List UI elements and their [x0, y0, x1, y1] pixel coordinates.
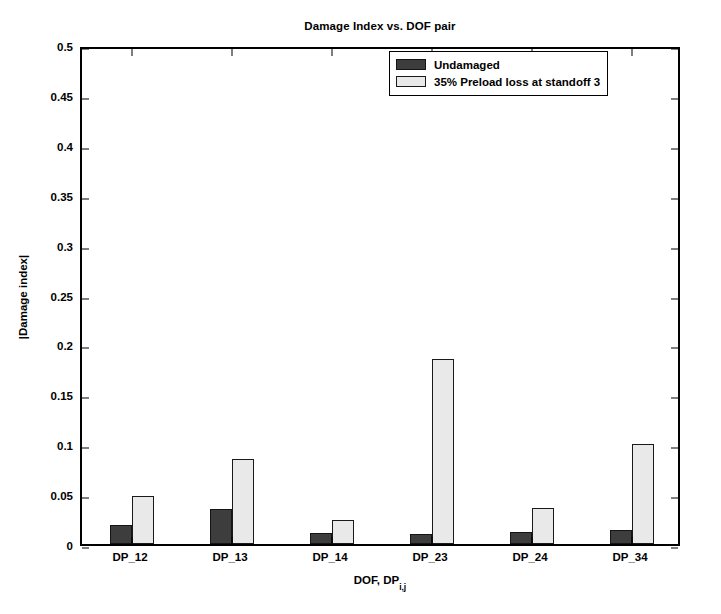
legend-label: 35% Preload loss at standoff 3	[434, 76, 600, 88]
x-tick-mark	[632, 537, 633, 544]
x-tick-label: DP_14	[312, 551, 347, 563]
y-tick-label: 0.1	[57, 440, 73, 452]
y-tick-mark	[82, 49, 89, 50]
bar	[332, 520, 354, 544]
y-tick-mark-right	[671, 198, 678, 199]
legend-item: Undamaged	[396, 56, 600, 73]
y-tick-label: 0.15	[51, 390, 73, 402]
legend-swatch	[396, 76, 426, 87]
y-tick-mark-right	[671, 248, 678, 249]
x-tick-mark	[232, 537, 233, 544]
x-axis-label-text: DOF, DP	[354, 574, 399, 586]
y-tick-mark	[82, 98, 89, 99]
bar	[610, 530, 632, 544]
y-tick-mark-right	[671, 448, 678, 449]
x-tick-mark-top	[132, 49, 133, 56]
y-tick-mark-right	[671, 548, 678, 549]
y-axis-label: |Damage index|	[14, 47, 32, 546]
y-tick-mark	[82, 298, 89, 299]
bar	[510, 532, 532, 544]
x-tick-label: DP_12	[112, 551, 147, 563]
x-tick-label: DP_34	[612, 551, 647, 563]
y-tick-label: 0.2	[57, 340, 73, 352]
y-tick-mark-right	[671, 398, 678, 399]
y-tick-mark-right	[671, 98, 678, 99]
bar	[132, 496, 154, 544]
bar	[432, 359, 454, 544]
y-tick-label: 0	[67, 540, 73, 552]
y-tick-label: 0.05	[51, 490, 73, 502]
x-tick-mark-top	[632, 49, 633, 56]
y-tick-mark-right	[671, 348, 678, 349]
y-tick-label: 0.35	[51, 191, 73, 203]
bar	[532, 508, 554, 544]
y-tick-label: 0.25	[51, 291, 73, 303]
legend-label: Undamaged	[434, 59, 500, 71]
y-tick-mark	[82, 148, 89, 149]
bar	[110, 525, 132, 544]
x-tick-label: DP_24	[512, 551, 547, 563]
y-tick-label: 0.45	[51, 91, 73, 103]
chart-figure: Damage Index vs. DOF pair |Damage index|…	[0, 0, 721, 614]
y-tick-mark	[82, 548, 89, 549]
y-tick-mark-right	[671, 298, 678, 299]
x-tick-label: DP_13	[212, 551, 247, 563]
y-tick-label: 0.5	[57, 41, 73, 53]
chart-legend: Undamaged35% Preload loss at standoff 3	[389, 51, 608, 96]
bar	[410, 534, 432, 544]
x-tick-mark-top	[332, 49, 333, 56]
bar	[310, 533, 332, 544]
y-tick-mark-right	[671, 49, 678, 50]
y-tick-mark	[82, 348, 89, 349]
bar	[210, 509, 232, 544]
x-tick-label: DP_23	[412, 551, 447, 563]
y-axis-label-text: |Damage index|	[17, 254, 29, 338]
y-tick-mark	[82, 198, 89, 199]
y-tick-mark-right	[671, 148, 678, 149]
plot-inner	[82, 49, 678, 544]
chart-title: Damage Index vs. DOF pair	[80, 20, 680, 32]
x-tick-mark-top	[232, 49, 233, 56]
x-tick-mark	[332, 537, 333, 544]
y-tick-mark	[82, 498, 89, 499]
x-axis-label-subscript: i,j	[399, 582, 406, 592]
x-axis-label: DOF, DPi,j	[80, 574, 680, 589]
x-tick-mark	[432, 537, 433, 544]
x-tick-mark	[132, 537, 133, 544]
bar	[632, 444, 654, 544]
y-tick-mark	[82, 398, 89, 399]
legend-swatch	[396, 59, 426, 70]
plot-area	[80, 47, 680, 546]
y-tick-mark	[82, 248, 89, 249]
y-tick-label: 0.4	[57, 141, 73, 153]
y-tick-label: 0.3	[57, 241, 73, 253]
bar	[232, 459, 254, 544]
legend-item: 35% Preload loss at standoff 3	[396, 73, 600, 90]
y-tick-mark-right	[671, 498, 678, 499]
y-tick-mark	[82, 448, 89, 449]
x-tick-mark	[532, 537, 533, 544]
